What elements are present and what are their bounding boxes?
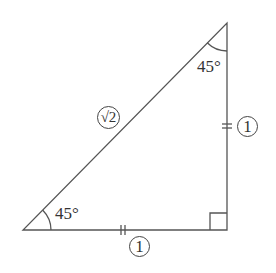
horizontal-leg-label: 1	[129, 236, 150, 257]
vertical-leg-label: 1	[237, 116, 258, 137]
angle-arc-top	[207, 43, 227, 51]
hypotenuse-label: √2	[97, 106, 120, 129]
angle-label-top: 45°	[197, 58, 221, 75]
triangle-diagram	[0, 0, 276, 273]
triangle-outline	[23, 23, 227, 230]
right-angle-marker	[210, 213, 227, 230]
horizontal-leg-value: 1	[135, 237, 144, 257]
vertical-leg-value: 1	[243, 117, 252, 137]
angle-arc-bottom-left	[43, 210, 51, 230]
sqrt-symbol: √2	[101, 109, 117, 126]
angle-label-bottom-left: 45°	[55, 205, 79, 222]
